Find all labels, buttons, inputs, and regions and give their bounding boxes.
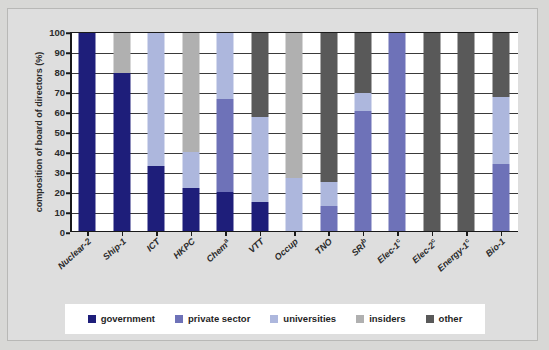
bar-segment-government bbox=[217, 192, 234, 232]
y-tick-label: 50 bbox=[54, 128, 65, 138]
legend-item[interactable]: government bbox=[88, 314, 155, 324]
x-tick-label: Elec-2c bbox=[409, 237, 439, 265]
y-tick-label: 0 bbox=[60, 228, 65, 238]
bar-slot bbox=[208, 33, 242, 232]
bar-slot bbox=[104, 33, 138, 232]
bar-segment-government bbox=[113, 73, 130, 232]
x-tick-label: Elec-1c bbox=[375, 237, 405, 265]
y-tick-label: 30 bbox=[54, 168, 65, 178]
bar-segment-insiders bbox=[286, 33, 303, 178]
bar-segment-private-sector bbox=[217, 99, 234, 193]
x-tick-mark bbox=[260, 232, 262, 236]
bar-segment-universities bbox=[148, 33, 165, 166]
x-tick-mark bbox=[397, 232, 399, 236]
bar-segment-universities bbox=[182, 152, 199, 188]
chart-frame: composition of board of directors (%) 01… bbox=[7, 8, 538, 341]
stacked-bar[interactable] bbox=[389, 33, 406, 232]
stacked-bar[interactable] bbox=[423, 33, 440, 232]
bar-slot bbox=[311, 33, 345, 232]
x-tick-label: HKPC bbox=[172, 237, 197, 261]
bar-segment-other bbox=[423, 33, 440, 232]
x-tick-mark bbox=[363, 232, 365, 236]
legend-label: insiders bbox=[369, 314, 405, 324]
x-tick-mark bbox=[294, 232, 296, 236]
stacked-bar[interactable] bbox=[320, 33, 337, 232]
bar-slot bbox=[415, 33, 449, 232]
bar-segment-other bbox=[458, 33, 475, 232]
bar-group bbox=[70, 33, 518, 232]
x-tick-label: Nuclear-2 bbox=[57, 237, 94, 271]
bar-segment-universities bbox=[492, 97, 509, 165]
x-tick-label: Ship-1 bbox=[101, 237, 127, 262]
x-tick-mark bbox=[328, 232, 330, 236]
bar-segment-government bbox=[182, 188, 199, 232]
bar-slot bbox=[139, 33, 173, 232]
bar-segment-universities bbox=[217, 33, 234, 99]
x-tick-label: Occup bbox=[273, 237, 300, 262]
bar-slot bbox=[346, 33, 380, 232]
bar-segment-universities bbox=[251, 117, 268, 203]
bar-slot bbox=[173, 33, 207, 232]
stacked-bar[interactable] bbox=[182, 33, 199, 232]
bar-segment-universities bbox=[286, 178, 303, 232]
stacked-bar[interactable] bbox=[79, 33, 96, 232]
stacked-bar[interactable] bbox=[286, 33, 303, 232]
y-tick-label: 10 bbox=[54, 208, 65, 218]
bar-segment-universities bbox=[354, 93, 371, 111]
bar-slot bbox=[242, 33, 276, 232]
legend-label: government bbox=[101, 314, 155, 324]
stacked-bar[interactable] bbox=[217, 33, 234, 232]
x-tick-label: SRIb bbox=[349, 237, 370, 258]
x-tick-label: TNO bbox=[314, 237, 334, 256]
bar-segment-universities bbox=[320, 182, 337, 206]
y-tick-label: 90 bbox=[54, 48, 65, 58]
y-tick-label: 40 bbox=[54, 148, 65, 158]
bar-slot bbox=[380, 33, 414, 232]
stacked-bar[interactable] bbox=[354, 33, 371, 232]
y-tick-label: 20 bbox=[54, 188, 65, 198]
bar-segment-insiders bbox=[182, 33, 199, 152]
bar-segment-other bbox=[251, 33, 268, 117]
bar-segment-other bbox=[492, 33, 509, 97]
x-tick-label: Chema bbox=[204, 237, 233, 264]
legend-item[interactable]: other bbox=[426, 314, 463, 324]
bar-segment-insiders bbox=[113, 33, 130, 73]
x-tick-mark bbox=[501, 232, 503, 236]
x-tick-mark bbox=[432, 232, 434, 236]
bar-segment-private-sector bbox=[320, 206, 337, 232]
stacked-bar[interactable] bbox=[113, 33, 130, 232]
bar-segment-government bbox=[251, 202, 268, 232]
y-axis-line bbox=[70, 33, 72, 232]
bar-segment-government bbox=[148, 166, 165, 232]
bar-slot bbox=[277, 33, 311, 232]
bar-segment-private-sector bbox=[492, 164, 509, 232]
x-tick-label: Bio-1 bbox=[484, 237, 507, 259]
legend-swatch-icon bbox=[88, 315, 96, 323]
bar-segment-private-sector bbox=[354, 111, 371, 232]
stacked-bar[interactable] bbox=[251, 33, 268, 232]
y-tick-label: 80 bbox=[54, 68, 65, 78]
plot-canvas: 0102030405060708090100 bbox=[70, 32, 518, 232]
legend-label: private sector bbox=[188, 314, 250, 324]
bar-slot bbox=[449, 33, 483, 232]
x-axis-labels: Nuclear-2Ship-1ICTHKPCChemaVTTOccupTNOSR… bbox=[70, 237, 518, 297]
legend-item[interactable]: universities bbox=[270, 314, 336, 324]
stacked-bar[interactable] bbox=[148, 33, 165, 232]
stacked-bar[interactable] bbox=[492, 33, 509, 232]
x-tick-mark bbox=[225, 232, 227, 236]
legend-label: other bbox=[439, 314, 463, 324]
x-tick-mark bbox=[122, 232, 124, 236]
plot-area: 0102030405060708090100 bbox=[70, 32, 518, 232]
legend-swatch-icon bbox=[270, 315, 278, 323]
legend-item[interactable]: insiders bbox=[356, 314, 405, 324]
bar-segment-other bbox=[354, 33, 371, 93]
bar-slot bbox=[70, 33, 104, 232]
x-tick-label: Energy-1c bbox=[435, 237, 474, 273]
x-tick-mark bbox=[466, 232, 468, 236]
legend-item[interactable]: private sector bbox=[175, 314, 250, 324]
legend-swatch-icon bbox=[175, 315, 183, 323]
legend-swatch-icon bbox=[426, 315, 434, 323]
y-axis-title: composition of board of directors (%) bbox=[32, 32, 46, 232]
stacked-bar[interactable] bbox=[458, 33, 475, 232]
legend-label: universities bbox=[283, 314, 336, 324]
